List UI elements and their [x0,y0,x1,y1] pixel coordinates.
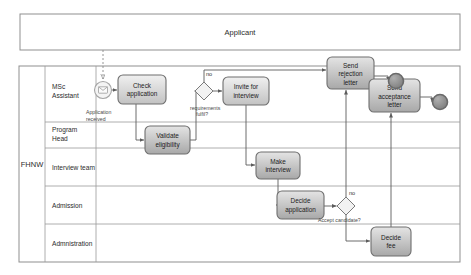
pool-applicant-label: Applicant [225,28,257,37]
task-invite-for-interview[interactable]: Invite for interview [223,77,269,105]
svg-text:application: application [285,206,316,214]
task-send-rejection-letter[interactable]: Send rejection letter [327,57,374,89]
svg-text:letter: letter [387,101,402,108]
svg-text:Decide: Decide [291,197,311,204]
task-decide-fee[interactable]: Decide fee [371,227,411,256]
task-check-application[interactable]: Check application [118,75,166,104]
edge-label-no-requirements: no [206,71,212,77]
lane-label-interview-team: Interview team [52,164,95,171]
svg-text:Admnistration: Admnistration [52,240,93,247]
start-event-label-line1: Application [86,109,111,115]
task-make-interview[interactable]: Make interview [256,152,300,179]
edge-label-no-accept: no [349,190,355,196]
event-end-acceptance[interactable] [433,95,448,110]
svg-text:Validate: Validate [156,132,179,139]
svg-text:Invite for: Invite for [234,83,259,90]
svg-text:fee: fee [387,242,396,249]
svg-text:MSc: MSc [52,83,66,90]
svg-text:Make: Make [270,158,286,165]
svg-text:eligibility: eligibility [155,141,180,149]
svg-text:Decide: Decide [381,234,401,241]
svg-text:application: application [127,90,158,98]
svg-text:Assistant: Assistant [52,92,79,99]
event-end-rejection[interactable] [389,74,404,89]
task-validate-eligibility[interactable]: Validate eligibility [145,126,190,154]
svg-text:Send: Send [343,62,358,69]
gateway-requirements-label-line2: fulfil? [196,111,208,117]
task-decide-application[interactable]: Decide application [277,191,324,219]
svg-text:letter: letter [343,79,358,86]
bpmn-diagram-canvas: Applicant FHNW MSc Assistant Program Hea… [0,0,471,275]
pool-fhnw-label: FHNW [21,160,44,169]
svg-text:interview: interview [265,166,291,173]
svg-text:Admission: Admission [52,202,83,209]
svg-text:Interview team: Interview team [52,164,95,171]
svg-text:Check: Check [133,82,152,89]
lane-label-admission: Admission [52,202,83,209]
gateway-accept-candidate-label: Accept candidate? [318,217,361,223]
start-event-label-line2: received [86,116,106,122]
end-event-acceptance-circle [433,95,448,110]
svg-text:acceptance: acceptance [378,93,411,101]
svg-text:interview: interview [233,92,259,99]
pool-applicant: Applicant [20,14,460,50]
end-event-rejection-circle [389,74,404,89]
svg-text:Program: Program [52,126,78,134]
svg-text:Head: Head [52,135,68,142]
svg-text:rejection: rejection [338,70,363,78]
lane-label-administration: Admnistration [52,240,93,247]
